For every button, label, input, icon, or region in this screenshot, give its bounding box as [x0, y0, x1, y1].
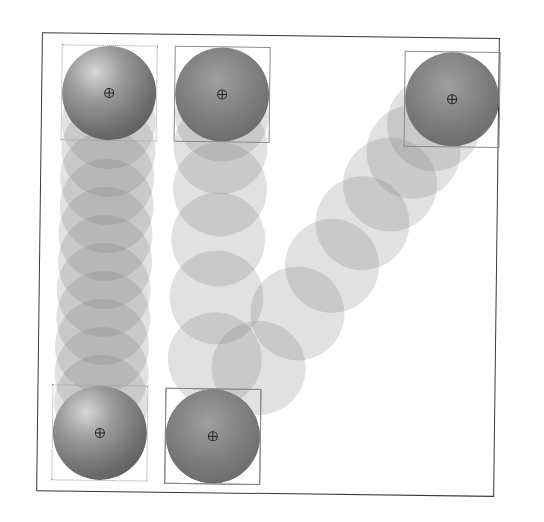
pivot-crosshair-icon[interactable]	[208, 431, 218, 441]
diagram-canvas	[0, 0, 544, 522]
pivot-crosshair-icon[interactable]	[95, 428, 105, 438]
ghost-trail-layer	[3, 0, 544, 4]
pivot-crosshair-icon[interactable]	[447, 94, 457, 104]
pivot-crosshair-icon[interactable]	[217, 89, 227, 99]
keyframe-layer	[3, 0, 544, 4]
pivot-crosshair-icon[interactable]	[104, 88, 114, 98]
